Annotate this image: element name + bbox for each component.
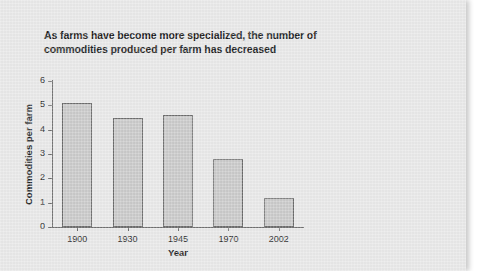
x-axis-tick	[128, 227, 129, 231]
x-axis-tick-label: 1900	[67, 234, 87, 244]
y-axis-title: Commodities per farm	[21, 99, 35, 211]
y-axis-tick-label: 4	[40, 124, 45, 134]
bar	[113, 118, 143, 228]
y-axis-tick: 1	[48, 203, 52, 204]
y-axis-tick: 5	[48, 105, 52, 106]
x-axis-tick	[228, 227, 229, 231]
x-axis-tick	[77, 227, 78, 231]
y-axis-tick: 2	[48, 178, 52, 179]
y-axis-tick: 4	[48, 130, 52, 131]
bar	[264, 198, 294, 227]
x-axis-tick-label: 1970	[218, 234, 238, 244]
y-axis-tick-label: 5	[40, 99, 45, 109]
bar	[62, 103, 92, 227]
y-axis-tick-label: 1	[40, 197, 45, 207]
x-axis-tick-label: 2002	[269, 234, 289, 244]
y-axis-tick-label: 3	[40, 148, 45, 158]
y-axis-tick-label: 2	[40, 172, 45, 182]
y-axis-tick: 6	[48, 81, 52, 82]
bar	[163, 115, 193, 227]
x-axis-tick	[178, 227, 179, 231]
bar	[213, 159, 243, 227]
x-axis-tick-label: 1930	[118, 234, 138, 244]
y-axis-line	[52, 80, 53, 228]
x-axis-tick-label: 1945	[168, 234, 188, 244]
y-axis-tick: 3	[48, 154, 52, 155]
y-axis-tick-label: 0	[40, 221, 45, 231]
bar-chart: Commodities per farm 0123456 19001930194…	[0, 0, 466, 271]
x-axis-tick	[279, 227, 280, 231]
x-axis-title: Year	[168, 247, 188, 258]
document-page: As farms have become more specialized, t…	[0, 0, 466, 271]
y-axis-tick-label: 6	[40, 75, 45, 85]
y-axis-tick: 0	[48, 227, 52, 228]
